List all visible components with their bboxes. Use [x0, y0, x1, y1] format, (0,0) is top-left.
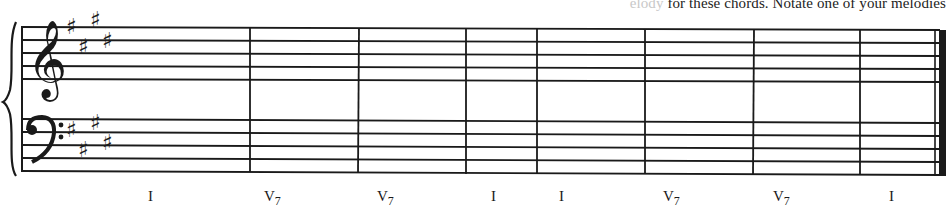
chord-label: I	[889, 188, 894, 205]
chord-roman: V	[377, 188, 388, 204]
chord-inversion: 7	[784, 194, 790, 208]
chord-label: V7	[377, 188, 394, 209]
chord-label: I	[559, 188, 564, 205]
chord-roman: V	[663, 188, 674, 204]
chord-inversion: 7	[674, 194, 680, 208]
chord-label: I	[148, 188, 153, 205]
sharp-icon: ♯	[90, 7, 101, 32]
treble-clef-icon: 𝄞	[27, 19, 67, 102]
sharp-icon: ♯	[66, 14, 77, 39]
chord-inversion: 7	[275, 194, 281, 208]
chord-roman: V	[264, 188, 275, 204]
chord-label: V7	[264, 188, 281, 209]
chord-label: V7	[663, 188, 680, 209]
chord-roman: I	[491, 188, 496, 204]
brace-icon	[3, 22, 16, 176]
sharp-icon: ♯	[78, 34, 89, 59]
svg-text:𝄞: 𝄞	[27, 19, 67, 102]
treble-staff-lines	[22, 27, 940, 82]
sharp-icon: ♯	[78, 137, 89, 162]
chord-roman: I	[148, 188, 153, 204]
treble-key-signature: ♯ ♯ ♯ ♯	[66, 7, 113, 59]
grand-staff: 𝄞 ♯ ♯ ♯ ♯ ♯ ♯ ♯ ♯	[0, 0, 946, 185]
sharp-icon: ♯	[66, 117, 77, 142]
chord-label: V7	[773, 188, 790, 209]
chord-roman: I	[889, 188, 894, 204]
sharp-icon: ♯	[102, 28, 113, 53]
sharp-icon: ♯	[90, 110, 101, 135]
final-double-barline	[935, 30, 946, 176]
sharp-icon: ♯	[102, 130, 113, 155]
bass-clef-icon	[27, 117, 63, 162]
chord-inversion: 7	[388, 194, 394, 208]
bass-staff-lines	[22, 119, 940, 175]
chord-roman: I	[559, 188, 564, 204]
chord-label: I	[491, 188, 496, 205]
bass-key-signature: ♯ ♯ ♯ ♯	[66, 110, 113, 162]
measure-barlines	[250, 27, 860, 175]
chord-roman: V	[773, 188, 784, 204]
